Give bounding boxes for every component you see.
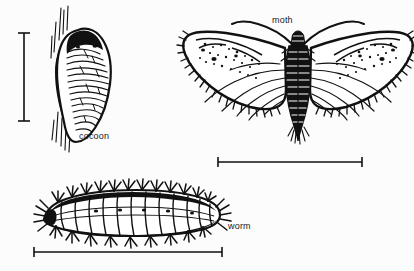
worm-illustration [0,0,414,271]
label-moth: moth [272,16,293,25]
worm-scalebar [28,244,228,260]
label-worm: worm [228,222,251,231]
lifecycle-figure: cocoon moth worm [0,0,414,271]
label-cocoon: cocoon [79,132,109,141]
